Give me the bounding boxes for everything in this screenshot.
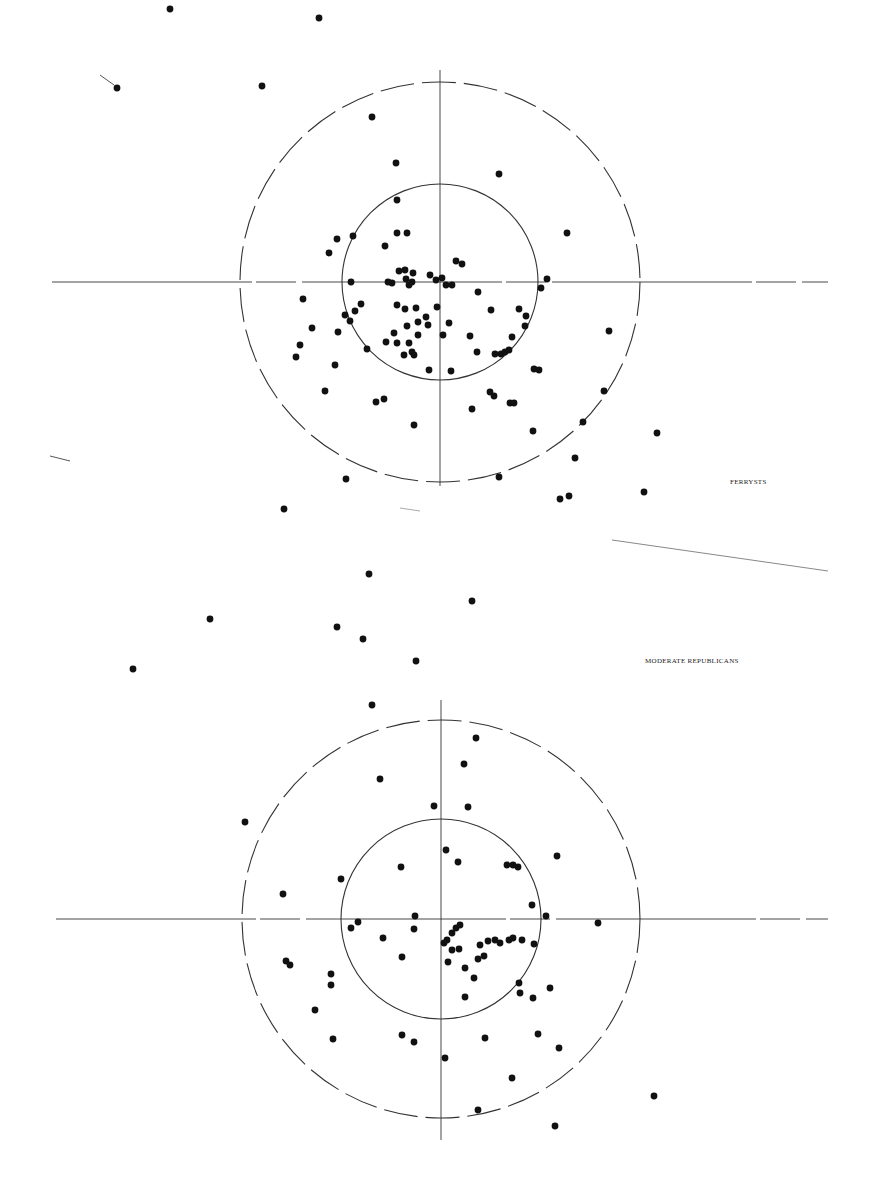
data-point	[342, 312, 349, 319]
data-point	[114, 85, 121, 92]
data-point	[448, 368, 455, 375]
data-point	[369, 114, 376, 121]
data-point	[423, 314, 430, 321]
data-point	[382, 243, 389, 250]
data-point	[393, 160, 400, 167]
data-point	[406, 340, 413, 347]
data-point	[529, 902, 536, 909]
data-point	[412, 913, 419, 920]
data-point	[641, 489, 648, 496]
data-point	[469, 598, 476, 605]
panel-label-ferrysts: FERRYSTS	[730, 478, 767, 486]
data-point	[462, 994, 469, 1001]
arrow-mark	[100, 75, 114, 85]
data-point	[287, 962, 294, 969]
data-point	[242, 819, 249, 826]
data-point	[449, 947, 456, 954]
data-point	[373, 399, 380, 406]
data-point	[535, 1031, 542, 1038]
data-point	[441, 940, 448, 947]
data-point	[293, 354, 300, 361]
data-point	[523, 313, 530, 320]
data-point	[167, 6, 174, 13]
data-point	[396, 268, 403, 275]
data-point	[482, 1035, 489, 1042]
data-point	[328, 971, 335, 978]
data-point	[309, 325, 316, 332]
data-point	[399, 954, 406, 961]
data-point	[536, 367, 543, 374]
data-point	[425, 322, 432, 329]
scatter-figure	[0, 0, 872, 1179]
data-point	[442, 1055, 449, 1062]
data-point	[530, 995, 537, 1002]
data-point	[516, 980, 523, 987]
data-point	[552, 1123, 559, 1130]
data-point	[654, 430, 661, 437]
data-point	[297, 342, 304, 349]
data-point	[410, 270, 417, 277]
data-point	[377, 776, 384, 783]
data-point	[439, 275, 446, 282]
data-point	[488, 307, 495, 314]
data-point	[431, 803, 438, 810]
data-point	[394, 302, 401, 309]
data-point	[572, 455, 579, 462]
ferrysts-panel	[52, 6, 828, 513]
data-point	[446, 320, 453, 327]
stray-line	[50, 456, 70, 461]
data-point	[415, 332, 422, 339]
data-point	[316, 15, 323, 22]
data-point	[492, 351, 499, 358]
data-point	[453, 258, 460, 265]
data-point	[366, 571, 373, 578]
data-point	[471, 975, 478, 982]
data-point	[394, 197, 401, 204]
data-point	[280, 891, 287, 898]
data-point	[391, 330, 398, 337]
data-point	[326, 250, 333, 257]
data-point	[404, 230, 411, 237]
data-point	[383, 339, 390, 346]
data-point	[510, 935, 517, 942]
data-point	[491, 393, 498, 400]
data-point	[469, 406, 476, 413]
data-point	[651, 1093, 658, 1100]
data-point	[456, 946, 463, 953]
data-point	[496, 171, 503, 178]
data-point	[399, 1032, 406, 1039]
data-point	[259, 83, 266, 90]
data-point	[449, 930, 456, 937]
data-point	[328, 982, 335, 989]
data-point	[511, 400, 518, 407]
data-point	[130, 666, 137, 673]
data-point	[496, 474, 503, 481]
data-point	[443, 282, 450, 289]
data-point	[461, 761, 468, 768]
data-point	[334, 236, 341, 243]
data-point	[312, 1007, 319, 1014]
data-point	[360, 636, 367, 643]
data-point	[517, 990, 524, 997]
data-point	[522, 323, 529, 330]
data-point	[465, 804, 472, 811]
data-point	[411, 926, 418, 933]
data-point	[415, 319, 422, 326]
data-point	[398, 864, 405, 871]
data-point	[509, 334, 516, 341]
data-point	[475, 289, 482, 296]
data-point	[381, 396, 388, 403]
data-point	[380, 935, 387, 942]
data-point	[519, 937, 526, 944]
data-point	[485, 938, 492, 945]
data-point	[595, 920, 602, 927]
data-point	[352, 308, 359, 315]
data-point	[348, 279, 355, 286]
data-point	[403, 276, 410, 283]
data-point	[516, 306, 523, 313]
data-point	[504, 862, 511, 869]
data-point	[358, 301, 365, 308]
data-point	[601, 388, 608, 395]
data-point	[475, 1107, 482, 1114]
data-point	[530, 428, 537, 435]
